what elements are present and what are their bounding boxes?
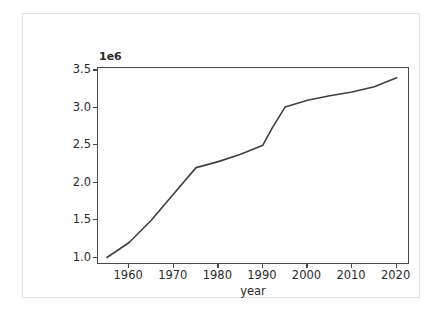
x-tick-label: 1990 xyxy=(247,268,276,282)
x-tick-label: 1970 xyxy=(158,268,187,282)
x-tick-label: 2020 xyxy=(381,268,410,282)
line-series-svg xyxy=(98,68,410,265)
chart-screenshot: 1e6 1.01.52.02.53.03.5 19601970198019902… xyxy=(0,0,442,322)
y-tick-label: 3.0 xyxy=(57,100,91,114)
data-line xyxy=(107,78,397,258)
plot-area xyxy=(97,67,409,264)
y-axis-tick-labels: 1.01.52.02.53.03.5 xyxy=(51,67,91,264)
y-tick-label: 1.5 xyxy=(57,212,91,226)
y-tick-label: 2.0 xyxy=(57,175,91,189)
y-axis-offset-label: 1e6 xyxy=(99,50,122,63)
x-tick-label: 2010 xyxy=(336,268,365,282)
x-tick-label: 1980 xyxy=(203,268,232,282)
x-tick-label: 1960 xyxy=(114,268,143,282)
x-axis-title: year xyxy=(97,284,409,298)
figure-frame: 1e6 1.01.52.02.53.03.5 19601970198019902… xyxy=(22,13,420,298)
y-tick-label: 2.5 xyxy=(57,137,91,151)
x-tick-label: 2000 xyxy=(292,268,321,282)
y-tick-label: 3.5 xyxy=(57,62,91,76)
y-tick-label: 1.0 xyxy=(57,250,91,264)
